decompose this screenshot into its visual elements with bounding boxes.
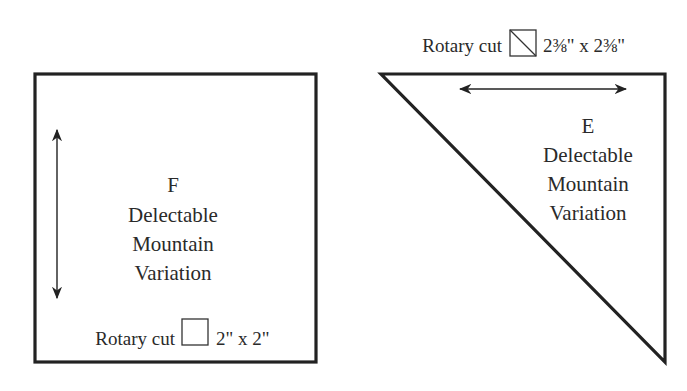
diagonal-cut-square-icon: [510, 30, 536, 56]
piece-f-line1: Delectable: [128, 203, 218, 227]
pattern-diagram: F Delectable Mountain Variation Rotary c…: [0, 0, 687, 391]
piece-e-line2: Mountain: [547, 172, 629, 196]
square-cut-icon: [182, 319, 208, 345]
piece-f-cut-size: 2" x 2": [216, 328, 270, 349]
piece-e-letter: E: [582, 114, 595, 138]
piece-f-cut-prefix: Rotary cut: [95, 328, 175, 349]
piece-f-line2: Mountain: [132, 232, 214, 256]
piece-f-letter: F: [167, 173, 179, 197]
piece-e-cut-size: 2⅜" x 2⅜": [543, 35, 625, 56]
piece-f: F Delectable Mountain Variation Rotary c…: [35, 74, 316, 362]
piece-f-line3: Variation: [135, 261, 212, 285]
piece-e-line3: Variation: [550, 201, 627, 225]
piece-e-cut-prefix: Rotary cut: [422, 35, 502, 56]
piece-e: Rotary cut 2⅜" x 2⅜" E Delectable Mounta…: [381, 30, 665, 362]
piece-e-line1: Delectable: [543, 143, 633, 167]
